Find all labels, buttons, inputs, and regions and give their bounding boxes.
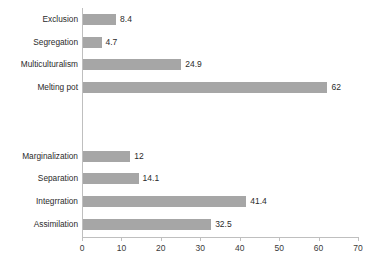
bar-row: Exclusion8.4 xyxy=(0,13,376,26)
x-axis-tick-mark xyxy=(200,237,201,241)
bar-value-label: 8.4 xyxy=(120,13,132,26)
bar-value-label: 12 xyxy=(134,150,143,163)
category-label: Marginalization xyxy=(0,150,78,163)
x-axis-tick-mark xyxy=(161,237,162,241)
bar-row: Marginalization12 xyxy=(0,150,376,163)
bar-row: Multiculturalism24.9 xyxy=(0,58,376,71)
bar-row: Segregation4.7 xyxy=(0,36,376,49)
x-axis-tick-label: 70 xyxy=(343,243,373,254)
bar-chart: 010203040506070 Exclusion8.4Segregation4… xyxy=(0,0,376,265)
x-axis-tick-label: 50 xyxy=(264,243,294,254)
bar-value-label: 24.9 xyxy=(185,58,202,71)
x-axis-tick-label: 60 xyxy=(304,243,334,254)
x-axis-tick-mark xyxy=(82,237,83,241)
bar xyxy=(83,59,181,70)
category-label: Melting pot xyxy=(0,81,78,94)
x-axis-tick-mark xyxy=(240,237,241,241)
x-axis-tick-mark xyxy=(121,237,122,241)
bar xyxy=(83,82,327,93)
category-label: Segregation xyxy=(0,36,78,49)
x-axis-tick-label: 40 xyxy=(225,243,255,254)
category-label: Multiculturalism xyxy=(0,58,78,71)
x-axis-tick-label: 20 xyxy=(146,243,176,254)
category-label: Separation xyxy=(0,172,78,185)
bar xyxy=(83,37,102,48)
bar-row: Assimilation32.5 xyxy=(0,218,376,231)
x-axis-tick-mark xyxy=(279,237,280,241)
x-axis-tick-label: 0 xyxy=(67,243,97,254)
bar xyxy=(83,151,130,162)
x-axis-tick-mark xyxy=(319,237,320,241)
bar-value-label: 62 xyxy=(331,81,340,94)
bar-value-label: 41.4 xyxy=(250,195,267,208)
bar-row: Separation14.1 xyxy=(0,172,376,185)
bar-value-label: 4.7 xyxy=(106,36,118,49)
x-axis-line xyxy=(82,237,358,238)
bar-row: Integrration41.4 xyxy=(0,195,376,208)
category-label: Integrration xyxy=(0,195,78,208)
bar xyxy=(83,14,116,25)
bar xyxy=(83,196,246,207)
category-label: Assimilation xyxy=(0,218,78,231)
bar xyxy=(83,173,139,184)
bar-value-label: 14.1 xyxy=(143,172,160,185)
plot-area: 010203040506070 Exclusion8.4Segregation4… xyxy=(0,0,376,265)
bar-row: Melting pot62 xyxy=(0,81,376,94)
x-axis-tick-label: 10 xyxy=(106,243,136,254)
bar-value-label: 32.5 xyxy=(215,218,232,231)
bar xyxy=(83,219,211,230)
x-axis-tick-mark xyxy=(358,237,359,241)
category-label: Exclusion xyxy=(0,13,78,26)
x-axis-tick-label: 30 xyxy=(185,243,215,254)
